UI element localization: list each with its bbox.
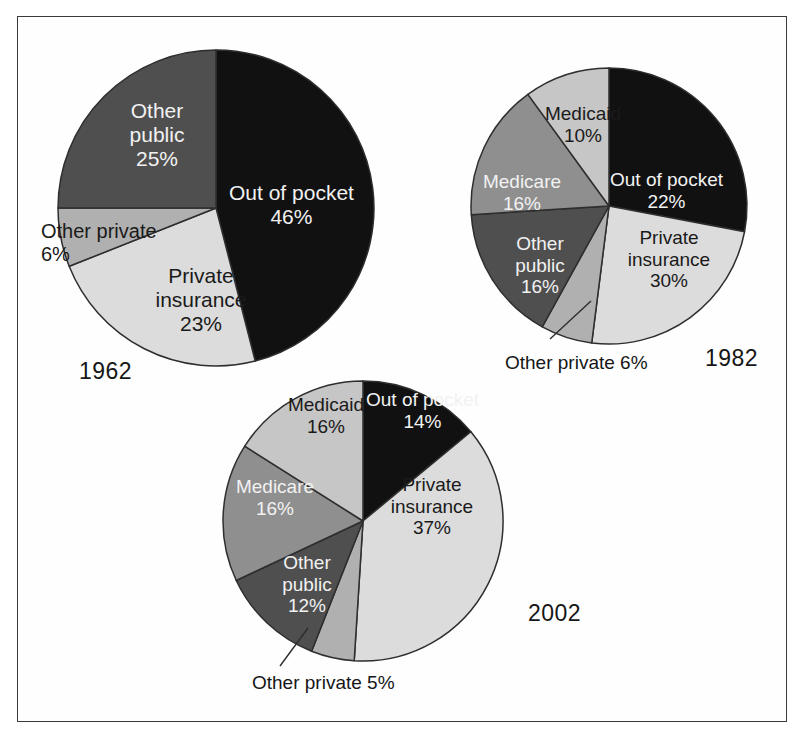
pie-1962-label-other-public: Other public 25%: [103, 99, 211, 171]
pie-1982-oop-line1: Out of pocket: [610, 169, 723, 191]
pie-1982-label-out-of-pocket: Out of pocket 22%: [610, 169, 723, 212]
pie-1982-opu-line1: Other: [500, 233, 580, 255]
pie-1982-pi-line1: Private: [616, 227, 722, 249]
pie-1982-mcd-line2: 10%: [538, 125, 628, 147]
pie-2002-opu-line3: 12%: [267, 595, 347, 617]
pie-2002-label-out-of-pocket: Out of pocket 14%: [366, 389, 479, 432]
pie-2002-mcr-line2: 16%: [229, 498, 321, 520]
pie-1982-mcr-line1: Medicare: [477, 171, 567, 193]
pie-2002-oop-line2: 14%: [366, 411, 479, 433]
pie-1982-opu-line2: public: [500, 255, 580, 277]
figure-frame: Out of pocket 46% Private insurance 23% …: [17, 16, 787, 722]
pie-1982-opu-line3: 16%: [500, 276, 580, 298]
pie-1962-opu-line1: Other: [103, 99, 211, 123]
pie-1962-label-private-insurance: Private insurance 23%: [145, 264, 257, 336]
pie-1982-label-medicare: Medicare 16%: [477, 171, 567, 214]
pie-1962-pi-line2: insurance: [145, 288, 257, 312]
pie-2002-pi-line1: Private: [378, 474, 486, 496]
pie-2002-label-medicaid: Medicaid 16%: [280, 394, 372, 437]
year-label-1962: 1962: [79, 358, 132, 385]
pie-1962-pi-line1: Private: [145, 264, 257, 288]
callout-2002-other-private: Other private 5%: [252, 672, 395, 694]
pie-1982-label-medicaid: Medicaid 10%: [538, 103, 628, 146]
pie-1982-label-private-insurance: Private insurance 30%: [616, 227, 722, 292]
pie-chart-2002: Out of pocket 14% Private insurance 37% …: [216, 374, 510, 668]
year-label-1982: 1982: [705, 345, 758, 372]
pie-1962-oop-line1: Out of pocket: [229, 181, 354, 205]
pie-1962-oop-line2: 46%: [229, 205, 354, 229]
pie-1982-oop-line2: 22%: [610, 191, 723, 213]
pie-1962-opu-line2: public: [103, 123, 211, 147]
pie-chart-1962: Out of pocket 46% Private insurance 23% …: [41, 33, 391, 383]
pie-1982-label-other-public: Other public 16%: [500, 233, 580, 298]
callout-1982-other-private: Other private 6%: [505, 352, 648, 374]
pie-1962-opr-line2: 6%: [41, 243, 157, 266]
pie-2002-pi-line2: insurance: [378, 496, 486, 518]
pie-2002-label-medicare: Medicare 16%: [229, 476, 321, 519]
pie-2002-label-private-insurance: Private insurance 37%: [378, 474, 486, 539]
pie-2002-label-other-public: Other public 12%: [267, 552, 347, 617]
pie-2002-oop-line1: Out of pocket: [366, 389, 479, 411]
pie-1962-label-other-private: Other private 6%: [41, 220, 157, 266]
pie-1982-pi-line3: 30%: [616, 270, 722, 292]
pie-2002-opu-line2: public: [267, 574, 347, 596]
pie-2002-mcr-line1: Medicare: [229, 476, 321, 498]
pie-1982-pi-line2: insurance: [616, 249, 722, 271]
pie-1982-mcr-line2: 16%: [477, 193, 567, 215]
pie-2002-opu-line1: Other: [267, 552, 347, 574]
pie-1962-opr-line1: Other private: [41, 220, 157, 243]
pie-2002-pi-line3: 37%: [378, 517, 486, 539]
pie-2002-mcd-line1: Medicaid: [280, 394, 372, 416]
pie-2002-mcd-line2: 16%: [280, 416, 372, 438]
pie-1962-opu-line3: 25%: [103, 147, 211, 171]
year-label-2002: 2002: [528, 600, 581, 627]
pie-1962-label-out-of-pocket: Out of pocket 46%: [229, 181, 354, 229]
pie-chart-1982: Out of pocket 22% Private insurance 30% …: [464, 61, 754, 351]
pie-1982-mcd-line1: Medicaid: [538, 103, 628, 125]
pie-1962-pi-line3: 23%: [145, 312, 257, 336]
